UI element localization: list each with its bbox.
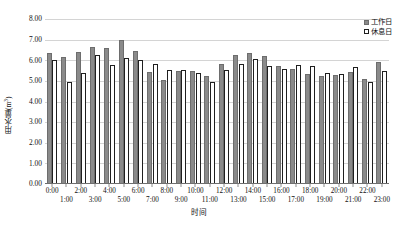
x-axis-tick-label: 18:00 [302, 187, 318, 195]
bar-weekday [290, 69, 295, 185]
bar-restday [124, 58, 129, 184]
bar-group [246, 19, 260, 184]
bar-restday [239, 64, 244, 184]
bar-restday [339, 74, 344, 184]
x-axis-tick-label: 19:00 [316, 196, 332, 204]
bar-weekday [119, 40, 124, 184]
x-axis-tick-label: 22:00 [359, 187, 375, 195]
bar-weekday [233, 55, 238, 184]
legend-swatch-weekday [364, 20, 369, 25]
x-axis-tick-label: 5:00 [117, 196, 130, 204]
bar-group [360, 19, 374, 184]
bar-restday [382, 71, 387, 184]
x-axis-tick-label: 10:00 [187, 187, 203, 195]
x-axis-tick-label: 8:00 [160, 187, 173, 195]
x-axis-line [45, 183, 389, 184]
bar-restday [67, 82, 72, 184]
y-axis-title-text: 用水量(m3) [4, 96, 13, 133]
x-axis-tick-label: 21:00 [345, 196, 361, 204]
bar-restday [138, 60, 143, 184]
x-axis-tick-label: 4:00 [103, 187, 116, 195]
bar-group [289, 19, 303, 184]
bar-restday [167, 70, 172, 184]
y-axis-tick-label: 1.00 [29, 160, 42, 167]
bar-weekday [305, 74, 310, 184]
bar-restday [95, 55, 100, 184]
bar-weekday [204, 76, 209, 184]
bar-group [188, 19, 202, 184]
bar-group [160, 19, 174, 184]
bar-weekday [133, 51, 138, 184]
x-axis-tick-label: 23:00 [374, 196, 390, 204]
bar-restday [224, 70, 229, 184]
bar-restday [81, 73, 86, 184]
bar-restday [153, 64, 158, 184]
bar-weekday [348, 72, 353, 184]
bar-group [346, 19, 360, 184]
bar-weekday [276, 66, 281, 184]
bar-group [102, 19, 116, 184]
x-axis-tick-label: 17:00 [288, 196, 304, 204]
bar-restday [353, 67, 358, 184]
bar-weekday [61, 57, 66, 184]
y-axis-tick-label: 0.00 [29, 180, 42, 187]
y-axis-tick-label: 6.00 [29, 57, 42, 64]
bar-weekday [176, 71, 181, 184]
plot-area [45, 19, 389, 184]
bar-restday [196, 73, 201, 184]
bar-weekday [376, 62, 381, 184]
legend-label: 工作日 [371, 18, 392, 27]
bar-group [117, 19, 131, 184]
bar-group [303, 19, 317, 184]
x-axis-tick-label: 3:00 [89, 196, 102, 204]
water-usage-bar-chart: 用水量(m3) 8.007.006.005.004.003.002.001.00… [0, 0, 399, 235]
x-axis-tick-label: 15:00 [259, 196, 275, 204]
bar-weekday [219, 64, 224, 184]
bar-restday [253, 59, 258, 184]
bar-group [74, 19, 88, 184]
bar-group [274, 19, 288, 184]
x-axis-tick-label: 7:00 [146, 196, 159, 204]
bar-restday [267, 66, 272, 184]
x-axis-tick-label: 13:00 [230, 196, 246, 204]
legend-item[interactable]: 休息日 [364, 28, 393, 37]
bar-group [59, 19, 73, 184]
bar-restday [110, 65, 115, 184]
x-axis-tick-label: 6:00 [132, 187, 145, 195]
bar-group [88, 19, 102, 184]
bar-group [174, 19, 188, 184]
bar-restday [52, 60, 57, 184]
x-axis-tick-label: 0:00 [46, 187, 59, 195]
bar-restday [325, 73, 330, 184]
bar-weekday [47, 53, 52, 184]
bar-group [217, 19, 231, 184]
y-axis-tick-label: 8.00 [29, 15, 42, 22]
x-axis-tick-label: 20:00 [331, 187, 347, 195]
bar-group [131, 19, 145, 184]
bar-group [45, 19, 59, 184]
y-axis-tick-label: 7.00 [29, 36, 42, 43]
bar-weekday [161, 80, 166, 184]
y-axis-tick-label: 4.00 [29, 98, 42, 105]
bar-restday [210, 82, 215, 184]
y-axis-tick-label: 3.00 [29, 118, 42, 125]
y-axis-title: 用水量(m3) [1, 60, 15, 170]
bar-restday [368, 82, 373, 184]
y-axis-tick-labels: 8.007.006.005.004.003.002.001.000.00 [14, 0, 44, 200]
legend-swatch-restday [364, 29, 369, 34]
chart-legend: 工作日休息日 [364, 18, 393, 36]
bar-restday [181, 70, 186, 184]
bar-weekday [362, 79, 367, 184]
bar-groups [45, 19, 389, 184]
bar-restday [296, 65, 301, 184]
bar-group [317, 19, 331, 184]
x-axis-tick-label: 11:00 [202, 196, 218, 204]
bar-weekday [104, 48, 109, 184]
bar-weekday [333, 75, 338, 184]
bar-restday [282, 69, 287, 185]
legend-item[interactable]: 工作日 [364, 18, 393, 27]
x-axis-tick-label: 2:00 [74, 187, 87, 195]
bar-group [375, 19, 389, 184]
bar-weekday [76, 52, 81, 184]
bar-weekday [147, 72, 152, 184]
